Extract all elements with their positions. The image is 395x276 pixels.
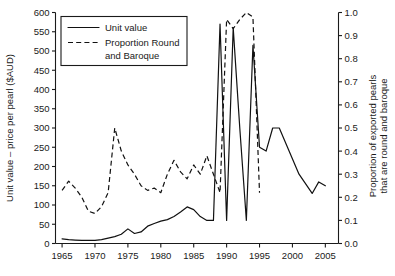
y-axis-left-tick-label: 350 — [34, 103, 50, 114]
chart-container: 0501001502002503003504004505005506000.00… — [0, 0, 395, 276]
y-axis-left-tick-label: 550 — [34, 26, 50, 37]
legend-label-proportion-line2: and Baroque — [105, 50, 159, 61]
y-axis-right-tick-label: 0.7 — [345, 76, 358, 87]
y-axis-left-tick-label: 400 — [34, 84, 50, 95]
pearl-unit-value-chart: 0501001502002503003504004505005506000.00… — [0, 0, 395, 276]
x-axis-tick-label: 1985 — [183, 250, 204, 261]
y-axis-left-tick-label: 500 — [34, 45, 50, 56]
y-axis-left-tick-label: 150 — [34, 180, 50, 191]
x-axis-tick-label: 1980 — [150, 250, 171, 261]
legend-label-proportion-line1: Proportion Round — [105, 37, 179, 48]
y-axis-right-title-line: that are round and baroque — [378, 78, 389, 193]
y-axis-left-tick-label: 300 — [34, 122, 50, 133]
y-axis-left-title: Unit value – price per pearl ($AUD) — [4, 54, 15, 202]
y-axis-left-tick-label: 600 — [34, 7, 50, 18]
y-axis-right-tick-label: 0.1 — [345, 215, 358, 226]
x-axis-tick-label: 1965 — [52, 250, 73, 261]
y-axis-right-tick-label: 0.8 — [345, 53, 358, 64]
y-axis-right-tick-label: 0.6 — [345, 99, 358, 110]
y-axis-left-tick-label: 0 — [44, 238, 49, 249]
y-axis-right-tick-label: 0.0 — [345, 238, 358, 249]
y-axis-left-tick-label: 450 — [34, 65, 50, 76]
y-axis-right-tick-label: 0.9 — [345, 30, 358, 41]
x-axis-tick-label: 2005 — [315, 250, 336, 261]
y-axis-left-tick-label: 100 — [34, 199, 50, 210]
y-axis-right-tick-label: 0.2 — [345, 192, 358, 203]
y-axis-right-tick-label: 0.3 — [345, 169, 358, 180]
x-axis-tick-label: 1995 — [249, 250, 270, 261]
y-axis-right-tick-label: 1.0 — [345, 7, 358, 18]
y-axis-right-tick-label: 0.4 — [345, 146, 358, 157]
x-axis-tick-label: 1970 — [84, 250, 105, 261]
y-axis-left-tick-label: 250 — [34, 142, 50, 153]
x-axis-tick-label: 1990 — [216, 250, 237, 261]
legend-label-unit-value: Unit value — [105, 22, 147, 33]
x-axis-tick-label: 1975 — [117, 250, 138, 261]
y-axis-left-tick-label: 200 — [34, 161, 50, 172]
y-axis-right-title: Proportion of exported pearlsthat are ro… — [367, 74, 389, 197]
y-axis-right-tick-label: 0.5 — [345, 122, 358, 133]
y-axis-right-title-line: Proportion of exported pearls — [367, 74, 378, 197]
y-axis-left-tick-label: 50 — [39, 219, 50, 230]
x-axis-tick-label: 2000 — [282, 250, 303, 261]
